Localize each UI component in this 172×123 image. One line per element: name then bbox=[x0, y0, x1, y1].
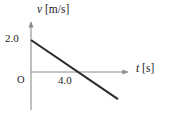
x-axis-tick-label-4-0: 4.0 bbox=[58, 75, 72, 86]
velocity-time-graph-figure: v [m/s] t [s] 2.0 4.0 O bbox=[0, 0, 172, 123]
y-axis-title: v [m/s] bbox=[37, 4, 69, 16]
origin-label: O bbox=[17, 75, 25, 86]
x-axis-title: t [s] bbox=[136, 63, 154, 75]
y-axis-unit: [m/s] bbox=[45, 3, 69, 15]
velocity-data-line bbox=[31, 40, 118, 99]
y-axis-tick-label-2-0: 2.0 bbox=[5, 33, 19, 44]
x-axis-unit: [s] bbox=[142, 62, 154, 74]
